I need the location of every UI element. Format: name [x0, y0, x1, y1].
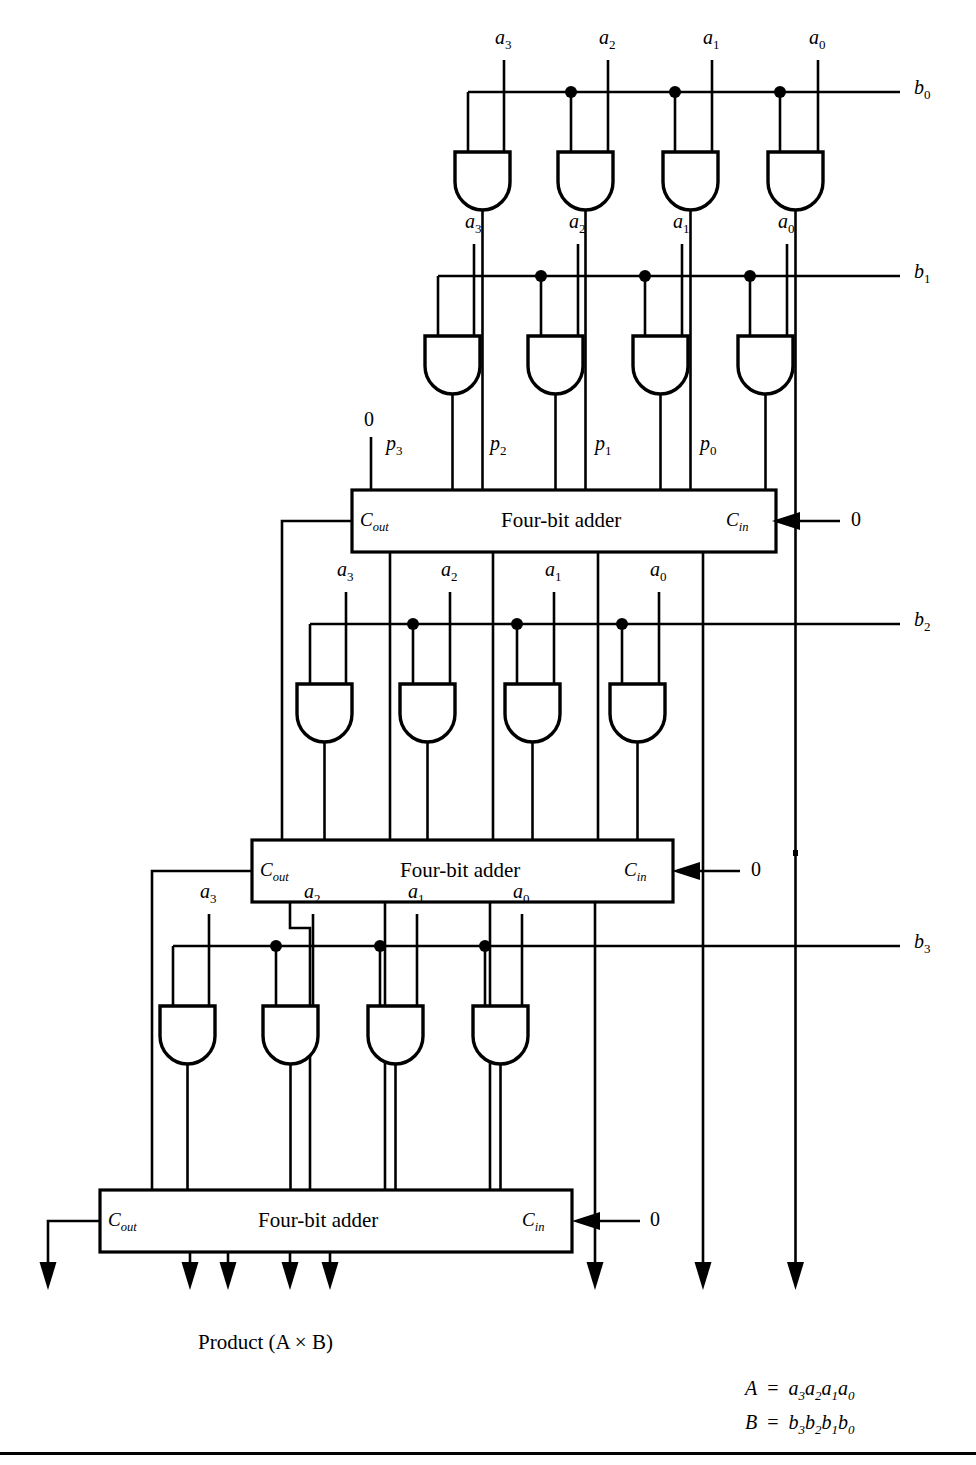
junction-dot [744, 270, 756, 282]
arrow-product-msb [40, 1262, 57, 1290]
label-a1-row1: a1 [703, 26, 720, 53]
label-b2: b2 [914, 608, 931, 635]
label-a3-row3: a3 [337, 558, 354, 585]
label-a0-row1: a0 [809, 26, 826, 53]
junction-dot [511, 618, 523, 630]
label-a1-row3: a1 [545, 558, 562, 585]
junction-dot [407, 618, 419, 630]
arrow-product-bit1 [695, 1262, 712, 1290]
label-b3: b3 [914, 930, 931, 957]
junction-dot [639, 270, 651, 282]
adder-1-label: Four-bit adder [501, 508, 621, 533]
label-p3: p3 [386, 432, 403, 459]
label-a2-row2: a2 [569, 210, 586, 237]
adder-3-label: Four-bit adder [258, 1208, 378, 1233]
adder-2-cin-zero: 0 [751, 858, 761, 881]
arrow-product-bit6 [182, 1262, 199, 1290]
adder-3-cin-zero: 0 [650, 1208, 660, 1231]
arrow-product-bit3 [322, 1262, 339, 1290]
label-a3-row2: a3 [465, 210, 482, 237]
adder-1-cout-label: Cout [360, 509, 389, 535]
junction-dot [565, 86, 577, 98]
and-gate-a0b1 [738, 336, 793, 394]
label-a3-row1: a3 [495, 26, 512, 53]
label-a1-row2: a1 [673, 210, 690, 237]
label-const-zero-adder1: 0 [364, 408, 374, 431]
junction-dot [535, 270, 547, 282]
and-gate-a0b0 [768, 152, 823, 210]
and-gate-a1b0 [663, 152, 718, 210]
and-gate-a1b2 [505, 684, 560, 742]
and-gate-a0b3 [473, 1006, 528, 1064]
label-a2-row4: a2 [304, 880, 321, 907]
legend-block: A = a3a2a1a0 B = b3b2b1b0 [745, 1375, 855, 1443]
adder-2-cout-label: Cout [260, 859, 289, 885]
and-gate-a0b2 [610, 684, 665, 742]
figure-canvas: a3 a2 a1 a0 b0 a3 a2 a1 a0 b1 0 p3 p2 p1… [0, 0, 976, 1465]
adder-2-cin-arrow [672, 862, 700, 880]
arrow-product-bit5 [220, 1262, 237, 1290]
product-caption: Product (A × B) [198, 1330, 333, 1355]
adder-3-cout-label: Cout [108, 1209, 137, 1235]
junction-dot [616, 618, 628, 630]
adder-3-cout-route [48, 1221, 100, 1272]
and-gate-a1b1 [633, 336, 688, 394]
adder-3-cin-label: Cin [522, 1209, 544, 1235]
junction-dot [270, 940, 282, 952]
and-gate-a3b3 [160, 1006, 215, 1064]
junction-dot [479, 940, 491, 952]
adder-1-cin-zero: 0 [851, 508, 861, 531]
label-p0: p0 [700, 432, 717, 459]
legend-line-A: A = a3a2a1a0 [745, 1375, 855, 1409]
label-p2: p2 [490, 432, 507, 459]
arrow-product-bit2 [587, 1262, 604, 1290]
label-a2-row3: a2 [441, 558, 458, 585]
and-gate-a2b0 [558, 152, 613, 210]
and-gate-a3b2 [297, 684, 352, 742]
label-a0-row4: a0 [513, 880, 530, 907]
legend-line-B: B = b3b2b1b0 [745, 1409, 855, 1443]
adder-2-cin-label: Cin [624, 859, 646, 885]
bottom-rule [0, 1452, 976, 1455]
and-gate-a2b2 [400, 684, 455, 742]
adder-1-cin-label: Cin [726, 509, 748, 535]
label-a3-row4: a3 [200, 880, 217, 907]
and-gate-a2b3 [263, 1006, 318, 1064]
and-gate-a1b3 [368, 1006, 423, 1064]
label-b0: b0 [914, 76, 931, 103]
and-gate-a2b1 [528, 336, 583, 394]
label-a0-row3: a0 [650, 558, 667, 585]
circuit-schematic [0, 0, 976, 1465]
label-p1: p1 [595, 432, 612, 459]
junction-dot [669, 86, 681, 98]
label-a2-row1: a2 [599, 26, 616, 53]
and-gate-a3b0 [455, 152, 510, 210]
label-a0-row2: a0 [778, 210, 795, 237]
arrow-product-bit4 [282, 1262, 299, 1290]
junction-dot [774, 86, 786, 98]
adder-3-cin-arrow [572, 1212, 600, 1230]
label-a1-row4: a1 [408, 880, 425, 907]
label-b1: b1 [914, 260, 931, 287]
and-gate-a3b1 [425, 336, 480, 394]
bus-tick-mark [793, 850, 798, 856]
arrow-product-bit0 [787, 1262, 804, 1290]
junction-dot [374, 940, 386, 952]
